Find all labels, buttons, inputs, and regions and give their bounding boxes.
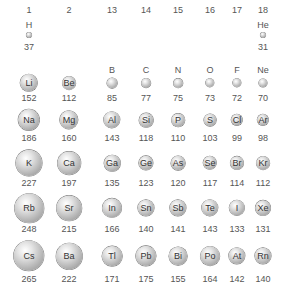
atom-sphere: Al (104, 112, 120, 128)
element-symbol: Pb (140, 251, 151, 261)
atom-sphere: In (102, 198, 121, 217)
atomic-radius: 85 (107, 93, 117, 103)
atomic-radius: 227 (21, 178, 36, 188)
atom-sphere: Ca (58, 152, 81, 175)
group-label: 14 (141, 5, 151, 15)
atom-sphere: Si (139, 113, 153, 127)
element-symbol: Ba (63, 251, 74, 261)
element-symbol: Rn (257, 251, 269, 261)
element-symbol: N (175, 65, 182, 75)
element-symbol: Si (142, 115, 150, 125)
atom-sphere (27, 33, 32, 38)
atom-sphere (259, 79, 267, 87)
element-symbol: Na (23, 115, 35, 125)
element-symbol: Ca (63, 158, 75, 168)
element-symbol: F (234, 65, 240, 75)
atomic-radius: 73 (205, 93, 215, 103)
group-label: 13 (107, 5, 117, 15)
atom-sphere: Te (202, 200, 218, 216)
element-symbol: Bi (174, 251, 182, 261)
element-symbol: Ar (258, 115, 267, 125)
atomic-radius: 197 (61, 178, 76, 188)
atomic-radius: 175 (138, 274, 153, 284)
element-symbol: Cs (24, 251, 35, 261)
atomic-radius: 70 (258, 93, 268, 103)
element-symbol: Cl (233, 115, 242, 125)
element-symbol: Be (63, 78, 74, 88)
atom-sphere: Cl (231, 114, 242, 125)
atomic-radius: 152 (21, 93, 36, 103)
atom-sphere: As (171, 156, 185, 170)
atomic-radius: 123 (138, 178, 153, 188)
atom-sphere (233, 79, 241, 87)
atom-sphere: Sn (138, 200, 154, 216)
element-symbol: Sb (172, 203, 183, 213)
atomic-radius: 120 (170, 178, 185, 188)
atomic-radius: 112 (256, 178, 270, 188)
group-label: 18 (258, 5, 268, 15)
atom-sphere (206, 79, 214, 87)
atom-sphere: Xe (255, 200, 270, 215)
atom-sphere: Ge (139, 156, 153, 170)
atom-sphere: Be (63, 77, 76, 90)
element-symbol: Rb (23, 203, 35, 213)
element-symbol: S (207, 115, 213, 125)
atomic-radius: 155 (170, 274, 185, 284)
atom-sphere: Mg (60, 111, 78, 129)
atomic-radius: 142 (229, 274, 244, 284)
atomic-radius: 31 (258, 42, 268, 52)
element-symbol: Se (204, 158, 215, 168)
atom-sphere: Se (203, 156, 216, 169)
atomic-radius: 112 (62, 93, 76, 103)
atom-sphere: Na (18, 109, 39, 130)
element-symbol: Li (25, 78, 32, 88)
atom-sphere: Sr (57, 196, 82, 221)
atomic-radius: 77 (141, 93, 151, 103)
element-symbol: Ne (257, 65, 269, 75)
atom-sphere: Cs (14, 241, 44, 271)
element-symbol: He (257, 20, 269, 30)
atom-sphere: Br (230, 156, 243, 169)
atomic-radius: 72 (232, 93, 242, 103)
atom-sphere: S (204, 114, 216, 126)
atom-sphere: At (229, 248, 245, 264)
element-symbol: As (173, 158, 184, 168)
atom-sphere (142, 79, 151, 88)
element-symbol: I (236, 203, 239, 213)
atomic-radius: 171 (104, 274, 119, 284)
atom-sphere: Rb (15, 194, 44, 223)
element-symbol: P (175, 115, 181, 125)
atomic-radius: 110 (171, 133, 185, 143)
atom-sphere: I (229, 200, 244, 215)
atom-sphere: Li (20, 74, 37, 91)
element-symbol: Ge (140, 158, 152, 168)
element-symbol: C (143, 65, 150, 75)
atomic-radius: 133 (229, 224, 244, 234)
element-symbol: Kr (259, 158, 268, 168)
element-symbol: B (109, 65, 115, 75)
atom-sphere: Ga (104, 155, 120, 171)
atom-sphere: Ar (257, 114, 268, 125)
element-symbol: H (26, 20, 33, 30)
atomic-radius: 140 (138, 224, 153, 234)
element-symbol: Po (204, 251, 215, 261)
atomic-radius: 117 (203, 178, 217, 188)
atomic-radius: 135 (104, 178, 119, 188)
group-label: 16 (205, 5, 215, 15)
atomic-radius: 98 (258, 133, 268, 143)
atom-sphere: P (172, 114, 185, 127)
atom-sphere: Tl (102, 246, 122, 266)
atomic-radius: 265 (21, 274, 36, 284)
element-symbol: Sr (65, 203, 74, 213)
group-label: 17 (232, 5, 242, 15)
atomic-radius: 248 (21, 224, 36, 234)
element-symbol: Al (108, 115, 116, 125)
atomic-radius: 103 (202, 133, 217, 143)
atom-sphere (261, 33, 266, 38)
element-symbol: Br (232, 158, 241, 168)
atomic-radius: 131 (255, 224, 270, 234)
atomic-radius: 222 (61, 274, 76, 284)
element-symbol: Te (205, 203, 215, 213)
atomic-radius: 141 (170, 224, 185, 234)
atomic-radius: 166 (104, 224, 119, 234)
